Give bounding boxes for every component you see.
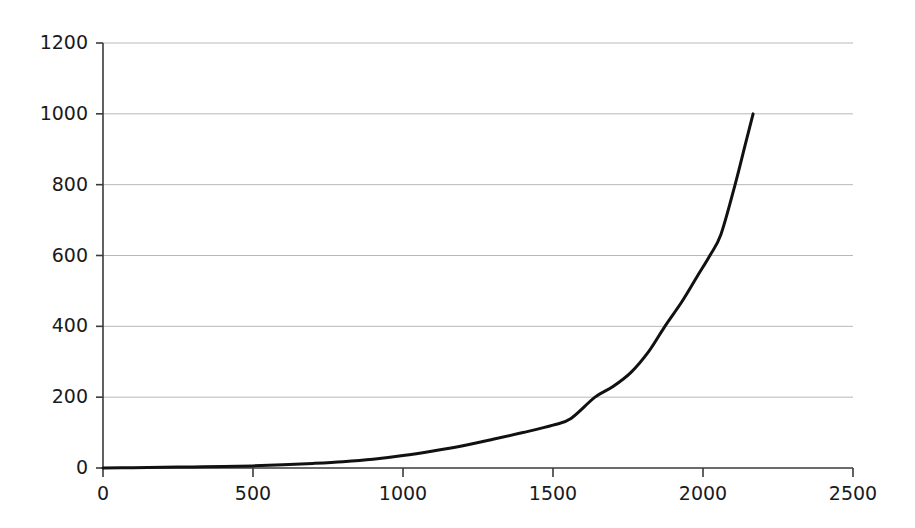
x-tick-label: 2500 (803, 484, 903, 503)
x-tick-group (103, 468, 853, 477)
line-chart: 020040060080010001200 050010001500200025… (0, 0, 915, 528)
x-tick-label: 1000 (353, 484, 453, 503)
y-tick-label: 600 (0, 246, 88, 265)
y-tick-label: 200 (0, 387, 88, 406)
x-tick-label: 500 (203, 484, 303, 503)
x-tick-label: 2000 (653, 484, 753, 503)
y-tick-label: 400 (0, 316, 88, 335)
chart-canvas (0, 0, 915, 528)
data-line (103, 114, 753, 468)
x-tick-label: 0 (53, 484, 153, 503)
x-tick-label: 1500 (503, 484, 603, 503)
y-tick-label: 800 (0, 175, 88, 194)
y-tick-label: 0 (0, 458, 88, 477)
y-tick-group (96, 43, 103, 468)
gridline-group (103, 43, 853, 397)
y-tick-label: 1200 (0, 33, 88, 52)
data-series-group (103, 114, 753, 468)
y-tick-label: 1000 (0, 104, 88, 123)
